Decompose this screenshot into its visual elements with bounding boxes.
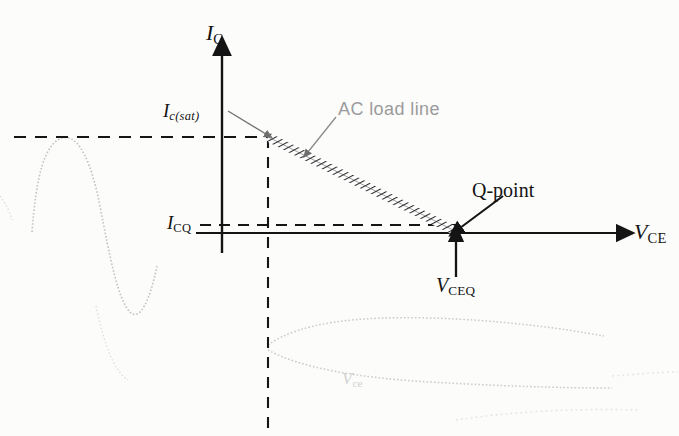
q-point-label: Q-point xyxy=(472,180,534,200)
ic-sat-label: Ic(sat) xyxy=(163,101,199,123)
ac-load-line-leader xyxy=(308,117,336,152)
vce-waveform-faint xyxy=(268,318,612,388)
x-axis-label: VCE xyxy=(634,221,667,245)
vce-waveform-label: Vce xyxy=(342,370,363,389)
ic-waveform-faint xyxy=(32,137,157,314)
vceq-label: VCEQ xyxy=(436,275,475,298)
ic-waveform-faint-tail xyxy=(0,196,128,380)
ac-load-line-figure: IC VCE Ic(sat) ICQ Q-point VCEQ AC load … xyxy=(0,0,679,436)
ac-load-line-label: AC load line xyxy=(338,100,440,118)
icsat-leader-line xyxy=(228,111,266,134)
icq-label: ICQ xyxy=(167,213,191,235)
diagram-canvas xyxy=(0,0,679,436)
y-axis-label: IC xyxy=(206,22,223,46)
q-point-marker xyxy=(454,229,458,233)
vce-waveform-faint-echo xyxy=(456,372,678,420)
ac-load-line xyxy=(268,137,457,232)
